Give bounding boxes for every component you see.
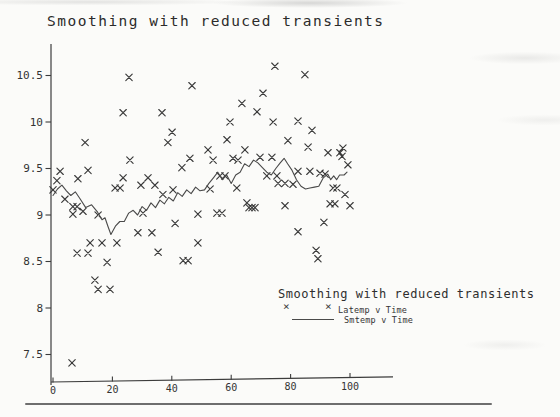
x-tick-label: 80 [285, 381, 297, 392]
scanned-plot-page: Smoothing with reduced transients 7.588.… [0, 0, 560, 417]
y-tick-label: 8 [36, 302, 43, 315]
legend-title: Smoothing with reduced transients [278, 287, 535, 301]
x-marker-icon: × [283, 302, 290, 312]
x-tick-label: 40 [166, 383, 178, 394]
legend: Smoothing with reduced transients × × La… [276, 287, 546, 332]
y-tick-label: 7.5 [23, 348, 43, 361]
y-tick-label: 9 [36, 209, 43, 222]
y-tick-label: 10 [30, 116, 43, 129]
scatter-plot: 7.588.599.51010.5020406080100 [0, 0, 560, 417]
x-tick-label: 0 [50, 385, 56, 396]
page-rule [25, 403, 492, 405]
y-tick-label: 10.5 [17, 69, 44, 82]
smoothed-line [53, 158, 347, 234]
y-tick-label: 9.5 [23, 162, 43, 175]
x-tick-label: 60 [225, 382, 237, 393]
x-tick-label: 20 [106, 384, 118, 395]
legend-entry-line-label: Smtemp v Time [344, 315, 413, 325]
x-tick-label: 100 [341, 381, 359, 392]
x-marker-icon: × [325, 302, 332, 312]
legend-entry-scatter-label: Latemp v Time [338, 305, 407, 315]
line-marker-icon [292, 319, 334, 320]
y-tick-label: 8.5 [23, 255, 43, 268]
